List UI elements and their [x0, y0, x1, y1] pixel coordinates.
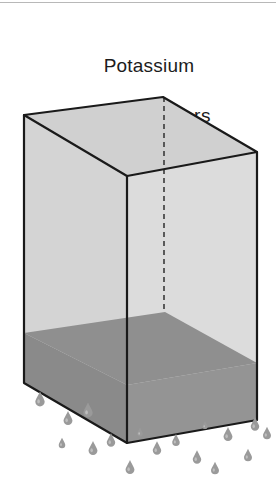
- droplet-highlight-icon: [213, 468, 215, 472]
- droplet-highlight-icon: [65, 418, 68, 422]
- droplet-icon: [153, 441, 161, 454]
- droplet-highlight-icon: [127, 467, 130, 471]
- droplet-icon: [224, 427, 233, 441]
- droplet-icon: [211, 462, 219, 475]
- droplet-icon: [89, 441, 98, 455]
- droplet-highlight-icon: [60, 443, 62, 446]
- droplet-highlight-icon: [265, 433, 267, 437]
- droplet-highlight-icon: [246, 455, 248, 459]
- droplet-highlight-icon: [108, 440, 110, 444]
- droplet-highlight-icon: [85, 410, 88, 414]
- droplet-icon: [64, 411, 73, 425]
- droplet-highlight-icon: [37, 399, 40, 403]
- droplet-highlight-icon: [225, 434, 228, 438]
- droplet-highlight-icon: [252, 424, 254, 428]
- isometric-box-illustration: [0, 0, 276, 501]
- droplet-highlight-icon: [174, 440, 176, 443]
- droplet-icon: [244, 449, 252, 462]
- droplet-highlight-icon: [194, 457, 196, 461]
- droplet-icon: [263, 427, 271, 440]
- droplet-icon: [193, 450, 201, 463]
- potassium-decay-figure: Potassium 11 million years: [0, 0, 276, 501]
- droplet-highlight-icon: [138, 432, 140, 435]
- droplet-highlight-icon: [203, 425, 204, 427]
- droplet-highlight-icon: [90, 448, 93, 452]
- droplet-icon: [126, 460, 135, 474]
- droplet-highlight-icon: [154, 448, 156, 452]
- droplet-icon: [59, 438, 66, 448]
